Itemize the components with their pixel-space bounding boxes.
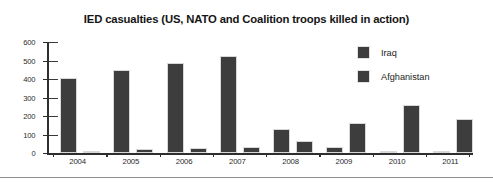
- x-axis-label-2008: 2008: [268, 157, 314, 166]
- legend-swatch-icon: [357, 70, 370, 83]
- y-axis-tick: 400: [43, 79, 48, 80]
- y-axis-gridline-stub: [49, 116, 58, 117]
- bar-iraq-2011: [433, 151, 450, 153]
- x-axis-label-2004: 2004: [55, 157, 101, 166]
- bar-iraq-2009: [326, 147, 343, 153]
- bar-afghanistan-2008: [296, 141, 313, 153]
- x-axis-label-2005: 2005: [108, 157, 154, 166]
- y-axis-gridline-stub: [49, 61, 58, 62]
- y-axis-tick: 0: [43, 153, 48, 154]
- chart-figure: IED casualties (US, NATO and Coalition t…: [0, 0, 493, 188]
- x-axis-label-2010: 2010: [374, 157, 420, 166]
- bar-afghanistan-2009: [349, 123, 366, 153]
- legend-item-label: Iraq: [381, 48, 397, 58]
- legend-item-iraq[interactable]: Iraq: [357, 42, 477, 63]
- y-axis-gridline-stub: [49, 98, 58, 99]
- bar-group: [113, 42, 153, 153]
- x-axis-line: [47, 153, 473, 155]
- y-axis-tick: 300: [43, 98, 48, 99]
- y-axis-tick-label: 500: [23, 56, 35, 65]
- bar-iraq-2010: [380, 151, 397, 153]
- bar-iraq-2004: [60, 78, 77, 153]
- bar-group: [220, 42, 260, 153]
- y-axis-tick-label: 600: [23, 38, 35, 47]
- bar-iraq-2005: [113, 70, 130, 153]
- bar-iraq-2007: [220, 56, 237, 153]
- bar-afghanistan-2011: [456, 119, 473, 153]
- bar-group: [60, 42, 100, 153]
- y-axis-tick-label: 400: [23, 75, 35, 84]
- bottom-divider: [0, 177, 493, 178]
- bar-iraq-2008: [273, 129, 290, 153]
- x-axis-label-2011: 2011: [427, 157, 473, 166]
- bar-afghanistan-2006: [190, 148, 207, 153]
- bar-iraq-2006: [167, 63, 184, 153]
- bar-afghanistan-2005: [136, 149, 153, 153]
- x-axis-label-2007: 2007: [214, 157, 260, 166]
- y-axis-tick: 500: [43, 61, 48, 62]
- y-axis-gridline-stub: [49, 135, 58, 136]
- legend-item-label: Afghanistan: [381, 72, 430, 82]
- bar-group: [167, 42, 207, 153]
- bar-afghanistan-2004: [83, 151, 100, 153]
- x-axis-label-2009: 2009: [321, 157, 367, 166]
- y-axis-tick-label: 300: [23, 93, 35, 102]
- y-axis-tick: 200: [43, 116, 48, 117]
- y-axis-tick-label: 0: [31, 149, 35, 158]
- y-axis-tick: 100: [43, 135, 48, 136]
- y-axis-gridline-stub: [49, 79, 58, 80]
- y-axis-tick-label: 100: [23, 130, 35, 139]
- y-axis-tick-label: 200: [23, 112, 35, 121]
- chart-legend: IraqAfghanistan: [357, 42, 477, 90]
- legend-swatch-icon: [357, 46, 370, 59]
- y-axis-tick: 600: [43, 42, 48, 43]
- y-axis-gridline-stub: [49, 42, 58, 43]
- x-axis-label-2006: 2006: [161, 157, 207, 166]
- bar-afghanistan-2007: [243, 147, 260, 153]
- legend-item-afghanistan[interactable]: Afghanistan: [357, 66, 477, 87]
- bar-afghanistan-2010: [403, 105, 420, 153]
- bar-group: [273, 42, 313, 153]
- chart-title: IED casualties (US, NATO and Coalition t…: [0, 13, 493, 25]
